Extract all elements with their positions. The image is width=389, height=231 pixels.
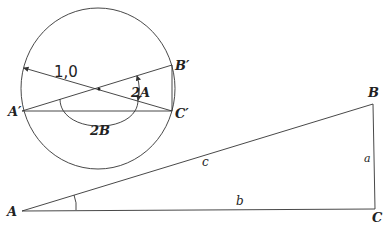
vertex-c-label: C xyxy=(372,210,383,225)
angle-2a-label: 2A xyxy=(130,85,150,100)
angle-2b-label: 2B xyxy=(89,123,110,138)
side-a xyxy=(373,104,375,209)
side-b-label: b xyxy=(236,194,244,208)
radius-label: 1,0 xyxy=(54,63,78,81)
circle-center-dot xyxy=(98,88,101,91)
side-b xyxy=(22,209,375,211)
diagram-canvas: 1,0 A′ B′ C′ 2A 2B A B C a b c xyxy=(0,0,389,231)
side-c xyxy=(22,104,373,211)
point-b-prime-label: B′ xyxy=(174,58,190,73)
geometry-figure: 1,0 A′ B′ C′ 2A 2B A B C a b c xyxy=(0,0,389,231)
point-a-prime-label: A′ xyxy=(6,104,22,119)
side-c-label: c xyxy=(202,155,209,169)
vertex-b-label: B xyxy=(367,85,379,100)
side-a-label: a xyxy=(364,152,371,165)
point-c-prime-label: C′ xyxy=(175,106,189,121)
angle-a-arc xyxy=(74,195,76,210)
vertex-a-label: A xyxy=(5,204,17,219)
